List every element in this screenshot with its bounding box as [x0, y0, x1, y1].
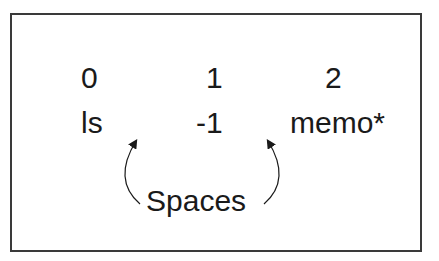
right-arrow-icon	[264, 141, 279, 204]
left-arrow-icon	[125, 141, 140, 204]
arrows	[0, 0, 439, 261]
